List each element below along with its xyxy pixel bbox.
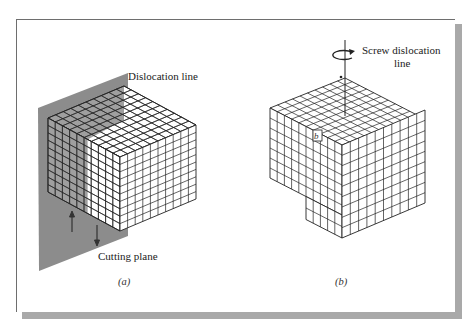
cutting-plane-label: Cutting plane [98, 251, 158, 262]
panel-b [270, 40, 425, 238]
panel-a [38, 73, 196, 271]
rotation-arrow-icon [333, 49, 355, 60]
dislocation-point [340, 76, 343, 79]
burgers-vector-label: b [314, 131, 319, 141]
screw-dislocation-label: Screw dislocation [362, 45, 441, 56]
caption-b: (b) [335, 276, 347, 287]
caption-a: (a) [118, 276, 130, 287]
dislocation-line-label: Dislocation line [128, 71, 198, 82]
screw-dislocation-label-line2: line [394, 58, 411, 69]
figure-container: Dislocation line Cutting plane (a) Screw… [0, 0, 476, 331]
crystal-cube-b [270, 78, 425, 238]
